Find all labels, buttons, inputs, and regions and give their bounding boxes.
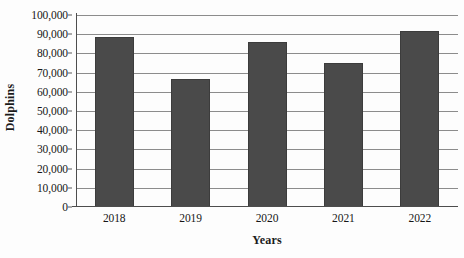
y-tick-mark <box>68 187 72 188</box>
x-axis-tick-labels: 20182019202020212022 <box>76 212 458 232</box>
y-tick-mark <box>68 168 72 169</box>
y-tick-label: 90,000 <box>37 28 68 40</box>
plot-area <box>76 15 458 207</box>
x-tick-label-2020: 2020 <box>229 212 305 224</box>
y-tick-label: 40,000 <box>37 124 68 136</box>
y-tick-label: 60,000 <box>37 86 68 98</box>
x-tick-label-2019: 2019 <box>152 212 228 224</box>
x-tick-label-2018: 2018 <box>76 212 152 224</box>
y-tick-label: 20,000 <box>37 163 68 175</box>
y-tick-mark <box>68 111 72 112</box>
bar-chart-figure: Dolphins 010,00020,00030,00040,00050,000… <box>0 0 464 258</box>
y-tick-mark <box>68 149 72 150</box>
y-axis-tick-labels: 010,00020,00030,00040,00050,00060,00070,… <box>16 15 72 207</box>
y-tick-mark <box>68 15 72 16</box>
y-tick-label: 80,000 <box>37 47 68 59</box>
x-axis-title: Years <box>76 233 458 248</box>
x-axis-line <box>72 206 458 207</box>
x-tick-label-2022: 2022 <box>382 212 458 224</box>
y-tick-mark <box>68 72 72 73</box>
y-tick-mark <box>68 34 72 35</box>
bar-2021 <box>324 63 363 207</box>
y-tick-label: 10,000 <box>37 182 68 194</box>
y-tick-mark <box>68 130 72 131</box>
y-tick-mark <box>68 91 72 92</box>
y-tick-label: 30,000 <box>37 143 68 155</box>
x-tick-label-2021: 2021 <box>305 212 381 224</box>
bar-2019 <box>171 79 210 207</box>
y-tick-mark <box>68 53 72 54</box>
y-tick-label: 70,000 <box>37 67 68 79</box>
bar-2018 <box>95 37 134 207</box>
bar-2020 <box>248 42 287 207</box>
y-tick-label: 100,000 <box>31 9 68 21</box>
bar-2022 <box>400 31 439 207</box>
y-tick-label: 50,000 <box>37 105 68 117</box>
bars-layer <box>76 15 458 207</box>
